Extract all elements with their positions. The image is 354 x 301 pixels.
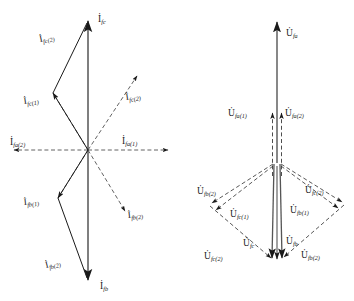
current-sequence-axes [14, 76, 168, 211]
label-ufb2-upper: U̇fb(2) [197, 185, 216, 198]
voltage-labels: U̇fa U̇fa(1) U̇fa(2) U̇fb(2) U̇fc(2) U̇f… [197, 27, 324, 263]
voltage-diagram: U̇fa U̇fa(1) U̇fa(2) U̇fb(2) U̇fc(2) U̇f… [197, 22, 344, 263]
label-ifc2-dashed: İfc(2) [125, 89, 142, 104]
label-ifc: İfc [98, 13, 106, 25]
label-ufc1: U̇fc(1) [230, 208, 249, 221]
label-ifb2-dashed: İfb(2) [127, 207, 144, 222]
label-ufc2-lower: U̇fc(2) [204, 250, 223, 263]
edge-ufc1 [216, 166, 273, 210]
label-ufb: U̇fb [286, 235, 298, 247]
label-ufb1: U̇fb(1) [290, 204, 309, 217]
label-ufc2-upper: U̇fc(2) [305, 184, 324, 197]
label-ufc: U̇fc [243, 237, 255, 249]
edge-ufb2-upper [212, 164, 273, 203]
axis-ifb2-dashed [88, 150, 125, 211]
label-ifc1: İfc(1) [23, 93, 40, 108]
axis-ifc2-dashed [88, 76, 137, 150]
phasor-ifb2 [58, 198, 87, 278]
phasor-ifc2 [53, 23, 87, 93]
label-ufa: U̇fa [286, 27, 298, 39]
label-ifa1: İfa(1) [122, 135, 137, 148]
phasor-ufc [272, 164, 274, 258]
label-ifc2-upper: İfc(2) [38, 30, 55, 46]
phasor-ifb1 [58, 150, 88, 198]
label-ifb2-lower: İfb(2) [44, 256, 62, 273]
label-ufa1: U̇fa(1) [228, 107, 247, 120]
label-ifb: İfb [100, 280, 108, 292]
label-ifb1: İfb(1) [23, 194, 40, 209]
label-ifa2: İfa(2) [10, 136, 25, 149]
figure-canvas: İfc İfc(2) İfc(1) İfc(2) İfa(2) İfa(1) İ… [0, 0, 354, 301]
phasor-ifc1 [53, 93, 88, 150]
phasor-diagram-svg: İfc İfc(2) İfc(1) İfc(2) İfa(2) İfa(1) İ… [0, 0, 354, 301]
label-ufb2-lower: U̇fb(2) [301, 249, 320, 262]
phasor-ufb [280, 164, 282, 258]
label-ufa2: U̇fa(2) [285, 107, 304, 120]
current-diagram: İfc İfc(2) İfc(1) İfc(2) İfa(2) İfa(1) İ… [10, 13, 168, 292]
